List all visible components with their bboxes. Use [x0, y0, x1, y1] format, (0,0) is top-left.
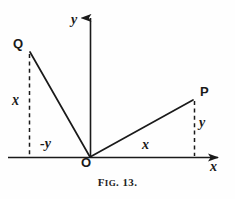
coordinate-axes-drawing	[0, 0, 235, 199]
dashed-drop-lines	[30, 54, 195, 156]
figure-caption: FIG. 13.	[0, 176, 235, 188]
leg-label-negative-y: -y	[40, 137, 51, 151]
leg-label-y-right: y	[199, 116, 205, 130]
point-label-Q: Q	[13, 37, 23, 50]
y-axis-label: y	[71, 13, 77, 27]
figure-13-diagram: Q P O x -y x y y x FIG. 13.	[0, 0, 235, 199]
leg-label-x-right: x	[142, 138, 149, 152]
ray-segments	[30, 52, 193, 157]
caption-smallcaps: IG	[105, 178, 116, 188]
caption-suffix: . 13.	[116, 176, 137, 188]
segment-origin-to-Q	[30, 52, 90, 157]
x-axis-label: x	[210, 160, 217, 174]
leg-label-x-left: x	[12, 92, 19, 108]
origin-label: O	[81, 156, 91, 169]
point-label-P: P	[200, 85, 209, 98]
caption-prefix: F	[98, 176, 105, 188]
